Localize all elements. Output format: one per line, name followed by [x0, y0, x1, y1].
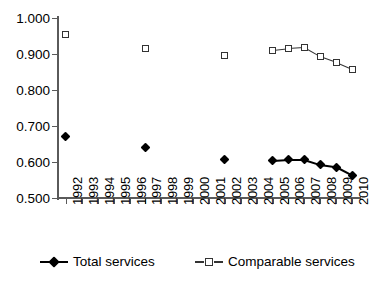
data-point-total-services — [220, 155, 230, 165]
plot-area — [58, 18, 360, 198]
y-axis-tick-label: 0.600 — [0, 156, 50, 170]
data-point-total-services — [284, 155, 294, 165]
data-point-total-services — [61, 131, 71, 141]
data-point-comparable-services — [221, 52, 228, 59]
x-axis-tick — [66, 199, 67, 204]
data-point-comparable-services — [349, 66, 356, 73]
data-point-total-services — [268, 156, 278, 166]
legend-item-total-services[interactable]: Total services — [40, 255, 155, 269]
data-point-comparable-services — [62, 31, 69, 38]
y-axis-tick-label: 0.900 — [0, 48, 50, 62]
open-square-icon — [195, 256, 223, 268]
chart-container: 1.000 0.900 0.800 0.700 0.600 0.500 1992… — [0, 0, 371, 282]
y-axis-tick-label: 0.500 — [0, 192, 50, 206]
data-point-comparable-services — [317, 53, 324, 60]
legend-label: Total services — [73, 255, 155, 269]
data-point-total-services — [299, 155, 309, 165]
data-point-total-services — [140, 143, 150, 153]
data-point-total-services — [315, 160, 325, 170]
data-point-comparable-services — [301, 44, 308, 51]
legend-label: Comparable services — [228, 255, 355, 269]
y-axis-tick-label: 0.800 — [0, 84, 50, 98]
y-axis-labels: 1.000 0.900 0.800 0.700 0.600 0.500 — [0, 0, 50, 282]
legend-item-comparable-services[interactable]: Comparable services — [195, 255, 355, 269]
data-point-comparable-services — [269, 47, 276, 54]
data-point-comparable-services — [333, 59, 340, 66]
filled-diamond-icon — [40, 256, 68, 268]
data-point-comparable-services — [142, 45, 149, 52]
chart-legend: Total services Comparable services — [0, 252, 371, 278]
y-axis-tick-label: 0.700 — [0, 120, 50, 134]
y-axis-tick-label: 1.000 — [0, 12, 50, 26]
data-point-comparable-services — [285, 45, 292, 52]
